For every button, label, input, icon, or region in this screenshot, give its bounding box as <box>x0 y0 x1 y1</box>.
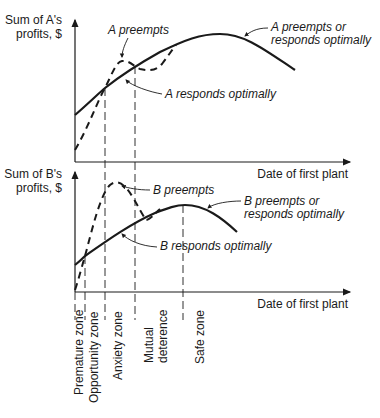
zone-opportunity: Opportunity zone <box>87 311 101 403</box>
top-dashed-curve <box>75 45 176 150</box>
bottom-solid-curve <box>75 205 237 265</box>
top-solid-curve <box>75 34 295 115</box>
bottom-ylabel-2: profits, $ <box>16 181 62 195</box>
bottom-dashed-curve <box>75 182 160 290</box>
zone-labels: Premature zone Opportunity zone Anxiety … <box>72 309 207 403</box>
top-xlabel: Date of first plant <box>257 167 348 181</box>
zone-safe: Safe zone <box>193 310 207 364</box>
zone-premature: Premature zone <box>72 309 86 395</box>
top-ylabel-1: Sum of A's <box>5 13 62 27</box>
zone-anxiety: Anxiety zone <box>111 311 125 380</box>
top-ylabel-2: profits, $ <box>16 27 62 41</box>
label-b-combined-2: responds optimally <box>244 207 345 221</box>
label-a-responds: A responds optimally <box>164 87 277 101</box>
bottom-ylabel-1: Sum of B's <box>4 167 62 181</box>
bottom-xlabel: Date of first plant <box>257 297 348 311</box>
bottom-panel: Sum of B's profits, $ Date of first plan… <box>4 167 350 311</box>
preemption-diagram: Sum of A's profits, $ Date of first plan… <box>0 0 380 418</box>
top-panel: Sum of A's profits, $ Date of first plan… <box>5 13 372 181</box>
label-b-responds: B responds optimally <box>160 239 272 253</box>
label-b-preempts: B preempts <box>153 183 214 197</box>
label-b-combined-1: B preempts or <box>244 194 320 208</box>
label-a-combined-1: A preempts or <box>270 20 347 34</box>
zone-mutual-1: Mutual <box>142 327 156 363</box>
label-a-preempts: A preempts <box>107 23 169 37</box>
zone-mutual-2: deterence <box>156 309 170 363</box>
label-a-combined-2: responds optimally <box>271 33 372 47</box>
